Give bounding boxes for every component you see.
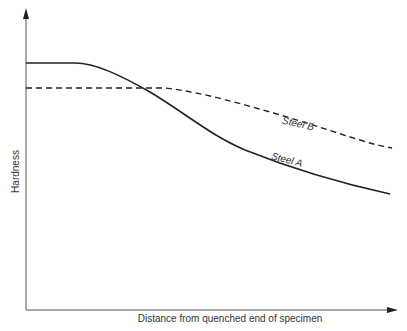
x-axis-arrow-icon bbox=[387, 307, 398, 313]
plot-area bbox=[0, 0, 407, 331]
steel-a-curve bbox=[26, 63, 390, 194]
x-axis-label: Distance from quenched end of specimen bbox=[110, 313, 350, 324]
steel-b-curve bbox=[26, 88, 392, 148]
y-axis-arrow-icon bbox=[23, 8, 29, 19]
chart: Hardness Distance from quenched end of s… bbox=[0, 0, 407, 331]
y-axis-label: Hardness bbox=[10, 145, 21, 199]
